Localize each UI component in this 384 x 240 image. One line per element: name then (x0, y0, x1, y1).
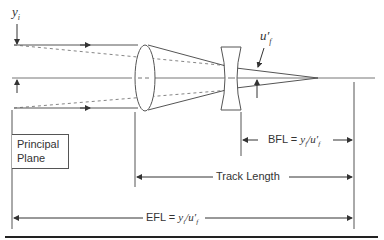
yi-sub: i (18, 13, 20, 22)
efl-prefix: EFL = (146, 211, 178, 223)
bfl-u: /u′ (307, 133, 318, 145)
dashed-ray-bottom (14, 90, 230, 108)
uf-arrow-down (258, 48, 264, 67)
uf-sub: f (269, 37, 271, 46)
principal-plane-box: Principal Plane (12, 134, 69, 169)
bfl-label: BFL = yf/u′f (268, 133, 320, 148)
dashed-ray-top (14, 45, 230, 66)
uf-text: u′ (260, 28, 269, 43)
optical-diagram (0, 0, 384, 240)
bfl-sub2: f (318, 140, 320, 148)
bfl-prefix: BFL = (268, 133, 300, 145)
principal-plane-line2: Plane (17, 151, 59, 165)
track-length-label: Track Length (216, 170, 280, 182)
principal-plane-line1: Principal (17, 137, 59, 151)
efl-u: /u′ (185, 211, 196, 223)
efl-sub2: f (196, 218, 198, 226)
efl-label: EFL = yi/u′f (146, 211, 198, 226)
yi-label: yi (12, 4, 20, 22)
uf-label: u′f (260, 28, 272, 46)
track-length-text: Track Length (216, 170, 280, 182)
